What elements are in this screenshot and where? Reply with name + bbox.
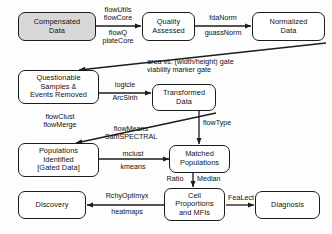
edge-label-flowtype: flowType	[203, 119, 243, 127]
node-quality-assessed-label: Quality Assessed	[150, 18, 186, 35]
node-transformed-data[interactable]: Transformed Data	[152, 84, 216, 111]
node-questionable-samples-label: Questionable Samples & Events Removed	[28, 74, 89, 100]
edge-label-heatmaps: heatmaps	[92, 208, 162, 216]
node-matched-populations[interactable]: Matched Populations	[169, 145, 230, 173]
edge-label-flowutils-flowcore: flowUtils flowCore	[94, 6, 142, 23]
edge-label-fealect: FeaLect	[226, 194, 256, 202]
edge-label-kmeans: kmeans	[107, 163, 159, 171]
node-discovery[interactable]: Discovery	[18, 191, 86, 219]
edge-label-mclust: mclust	[107, 150, 159, 158]
node-transformed-data-label: Transformed Data	[161, 89, 207, 106]
node-discovery-label: Discovery	[34, 201, 71, 210]
node-cell-proportions-label: Cell Proportions and MFIs	[173, 192, 215, 218]
edge-label-arcsinh: ArcSinh	[102, 94, 148, 102]
node-diagnosis-label: Diagnosis	[269, 201, 306, 210]
node-compensated-data-label: Compensated Data	[32, 18, 83, 35]
node-compensated-data[interactable]: Compensated Data	[18, 12, 96, 41]
edge-label-rchyoptimyx: RchyOptimyx	[92, 192, 162, 200]
node-normalized-data[interactable]: Normalized Data	[252, 12, 325, 41]
node-matched-populations-label: Matched Populations	[178, 150, 221, 167]
edge-label-flowmeans-samspectral: flowMeans SamSPECTRAL	[94, 125, 168, 142]
edge-label-median: Median	[197, 175, 233, 183]
edge-label-flowq-platecore: flowQ plateCore	[94, 29, 142, 46]
edge-label-area-viability-gate: area vs. (width/height) gate viability m…	[147, 58, 271, 75]
diagram-canvas: Compensated Data Quality Assessed Normal…	[0, 0, 332, 234]
edge-label-flowclust-flowmerge: flowClust flowMerge	[32, 113, 88, 130]
node-quality-assessed[interactable]: Quality Assessed	[142, 12, 195, 41]
node-diagnosis[interactable]: Diagnosis	[255, 191, 320, 219]
node-cell-proportions[interactable]: Cell Proportions and MFIs	[164, 188, 225, 221]
node-questionable-samples[interactable]: Questionable Samples & Events Removed	[18, 70, 99, 104]
edge-label-logicle: logicle	[102, 81, 148, 89]
edge-label-ratio: Ratio	[160, 175, 190, 183]
edge-label-guassnorm: guassNorm	[198, 29, 248, 37]
edge-label-fdanorm: fdaNorm	[198, 14, 248, 22]
node-populations-identified[interactable]: Populations Identified [Gated Data]	[18, 143, 99, 177]
node-populations-identified-label: Populations Identified [Gated Data]	[35, 147, 82, 173]
node-normalized-data-label: Normalized Data	[268, 18, 310, 35]
